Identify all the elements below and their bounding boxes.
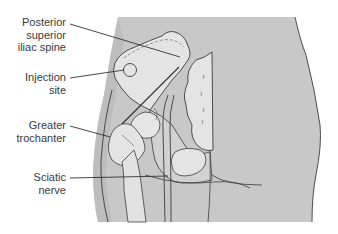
label-greater-trochanter: Greater trochanter bbox=[8, 119, 66, 144]
label-injection-site: Injection site bbox=[8, 71, 66, 96]
label-sciatic-nerve: Sciatic nerve bbox=[8, 171, 66, 196]
label-posterior-superior-iliac-spine: Posterior superior iliac spine bbox=[8, 16, 66, 54]
